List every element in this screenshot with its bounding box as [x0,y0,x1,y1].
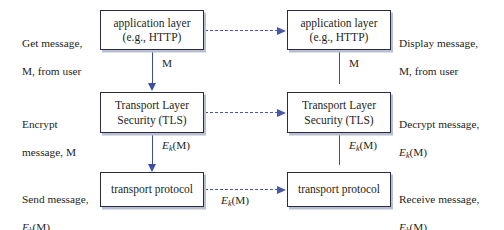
receive-message-line1: Receive message, [399,192,479,206]
formula-arg: (M) [410,146,428,158]
display-message-caption: Display message, M, from user [399,22,478,93]
left-application-layer-label: application layer (e.g., HTTP) [111,16,194,44]
transport-protocol-link-arrow [205,189,278,190]
encrypt-message-caption: Encrypt message, M [22,103,76,174]
right-application-layer-box: application layer (e.g., HTTP) [287,10,391,50]
tls-flow-diagram: application layer (e.g., HTTP) Transport… [0,0,504,230]
encrypt-line1: Encrypt [22,117,76,131]
send-message-formula: Ek(M) [22,220,89,230]
send-message-line1: Send message, [22,192,89,206]
formula-e: E [399,146,406,158]
formula-arg: (M) [232,194,250,206]
application-layer-link-arrow [205,30,278,31]
left-application-layer-box: application layer (e.g., HTTP) [100,10,204,50]
right-tls-line2: Security (TLS) [304,114,373,126]
encrypt-line2: message, M [22,145,76,159]
left-tls-line2: Security (TLS) [117,114,186,126]
decrypt-message-line1: Decrypt message, [399,117,479,131]
formula-arg: (M) [173,139,191,151]
right-transport-protocol-box: transport protocol [287,172,391,207]
transport-protocol-link-label: Ek(M) [221,194,249,209]
right-tls-line1: Transport Layer [302,99,376,111]
right-app-line1: application layer [301,17,378,29]
formula-e: E [162,139,169,151]
right-tls-label: Transport Layer Security (TLS) [299,98,379,126]
left-tls-to-transport-arrow [152,134,154,165]
formula-arg: (M) [410,221,428,230]
right-tls-to-app-arrow [339,51,341,84]
left-app-to-tls-arrow [152,51,154,84]
display-message-line1: Display message, [399,36,478,50]
get-message-caption: Get message, M, from user [22,22,82,93]
left-tls-line1: Transport Layer [115,99,189,111]
decrypt-message-caption: Decrypt message, Ek(M) [399,103,479,176]
tls-link-arrow [205,112,278,113]
receive-message-formula: Ek(M) [399,220,479,230]
left-app-line2: (e.g., HTTP) [123,31,182,43]
left-tls-label: Transport Layer Security (TLS) [112,98,192,126]
get-message-line1: Get message, [22,36,82,50]
left-transport-protocol-label: transport protocol [108,182,196,196]
right-arrow-label-m: M [349,57,359,69]
right-application-layer-label: application layer (e.g., HTTP) [298,16,381,44]
left-arrow-label-ekm: Ek(M) [162,139,190,154]
right-tls-box: Transport Layer Security (TLS) [287,92,391,133]
right-app-line2: (e.g., HTTP) [310,31,369,43]
display-message-line2: M, from user [399,64,478,78]
left-arrow-label-m: M [162,57,172,69]
decrypt-message-formula: Ek(M) [399,145,479,161]
left-tls-box: Transport Layer Security (TLS) [100,92,204,133]
formula-e: E [349,139,356,151]
get-message-line2: M, from user [22,64,82,78]
formula-e: E [221,194,228,206]
receive-message-caption: Receive message, Ek(M) [399,178,479,230]
formula-e: E [399,221,406,230]
right-transport-to-tls-arrow [339,134,341,165]
formula-arg: (M) [33,221,51,230]
formula-arg: (M) [360,139,378,151]
send-message-caption: Send message, Ek(M) [22,178,89,230]
right-arrow-label-ekm: Ek(M) [349,139,377,154]
right-transport-protocol-label: transport protocol [295,182,383,196]
left-app-line1: application layer [114,17,191,29]
formula-e: E [22,221,29,230]
left-transport-protocol-box: transport protocol [100,172,204,207]
